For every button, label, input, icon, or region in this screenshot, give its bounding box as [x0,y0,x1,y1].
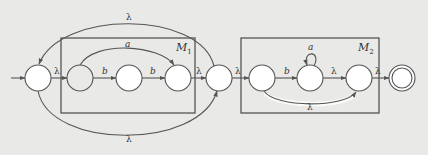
edge-label: λ [235,66,241,76]
edge-label: λ [196,66,202,76]
state-accepting-inner [392,68,412,88]
machine-label-m1: M1 [175,41,192,56]
edge-label: b [284,66,290,76]
state-initial [25,65,51,91]
edge-label: a [125,39,130,49]
state-junction [206,65,232,91]
edge-label: λ [126,134,132,144]
edge-label: λ [331,66,337,76]
edge-label: λ [307,102,313,112]
edge-m1a-m1c [80,48,174,65]
machine-label-m2: M2 [357,41,374,56]
state-m1-final [165,65,191,91]
edge-label: b [102,66,108,76]
edge-label: b [150,66,156,76]
edge-m2b-loop [306,54,316,66]
edge-label: λ [126,12,132,22]
nfa-diagram: M1 M2 λ b b a λ λ λ λ b a λ λ λ [0,0,428,155]
state-m2-start [249,65,275,91]
state-m1-middle [116,65,142,91]
state-m1-start [67,65,93,91]
state-m2-final [346,65,372,91]
edge-label: λ [375,66,381,76]
edge-label: λ [54,66,60,76]
edge-label: a [308,42,313,52]
state-m2-middle [297,65,323,91]
